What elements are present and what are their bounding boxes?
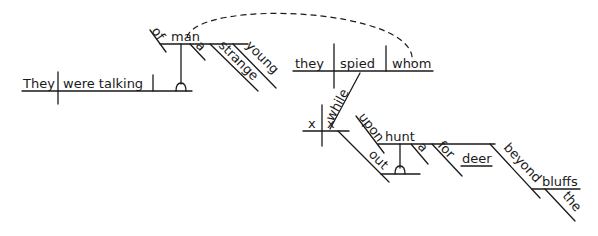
word-x-verb: x <box>327 116 335 131</box>
word-upon: upon <box>356 110 388 145</box>
word-whom: whom <box>392 56 432 71</box>
word-bluffs: bluffs <box>542 174 578 189</box>
word-a-2: a <box>415 139 431 155</box>
word-they-relative: they <box>295 56 324 71</box>
word-for: for <box>435 138 459 162</box>
word-they-main: They <box>22 76 55 91</box>
word-man: man <box>171 29 200 44</box>
word-deer: deer <box>462 151 492 166</box>
sentence-diagram: They were talking of man a strange young… <box>0 0 598 236</box>
word-of: of <box>149 24 169 43</box>
word-out: out <box>366 147 392 173</box>
word-the: the <box>560 188 585 214</box>
word-x-subject: x <box>308 116 316 131</box>
word-were-talking: were talking <box>63 76 143 91</box>
word-hunt: hunt <box>385 129 415 144</box>
word-spied: spied <box>340 56 375 71</box>
